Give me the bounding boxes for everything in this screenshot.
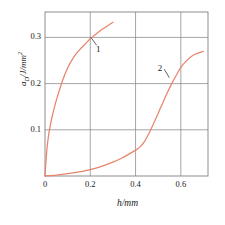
x-tick-label-3: 0.6 [171, 179, 191, 189]
data-curve-2 [45, 51, 203, 176]
curve-label-1: 1 [94, 44, 102, 54]
y-tick-label-2: 0.3 [18, 31, 41, 41]
annotation-leader-2 [164, 69, 169, 77]
data-curve-1 [45, 22, 113, 176]
x-tick-label-0: 0 [35, 179, 55, 189]
curve-label-2: 2 [156, 63, 164, 73]
x-tick-label-1: 0.2 [80, 179, 100, 189]
y-axis-label-exponent: 2 [16, 52, 23, 55]
y-axis-label-unit: /J/mm [18, 55, 28, 77]
plot-frame [45, 12, 208, 176]
x-axis-label-unit: /mm [122, 198, 138, 208]
x-tick-label-2: 0.4 [126, 179, 146, 189]
x-axis-label: h/mm [45, 198, 210, 208]
y-tick-label-1: 0.2 [18, 78, 41, 88]
y-axis-label: aD/J/mm2 [16, 34, 30, 104]
y-tick-label-0: 0.1 [18, 124, 41, 134]
chart-figure: aD/J/mm2 h/mm 00.20.40.60.10.20.312 [0, 0, 225, 225]
